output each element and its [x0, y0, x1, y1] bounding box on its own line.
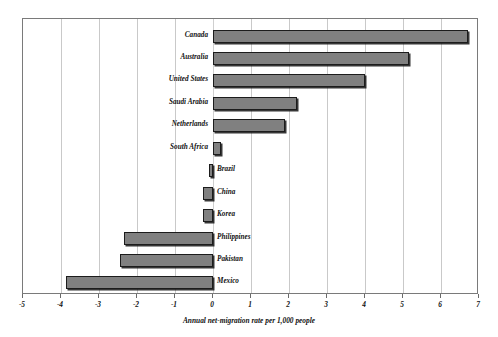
bar — [213, 119, 285, 132]
x-axis-tick-label: 3 — [314, 300, 338, 310]
category-label: Canada — [185, 29, 208, 42]
plot-area — [22, 18, 478, 294]
category-label: Mexico — [217, 275, 239, 288]
x-axis-tick-label: -2 — [124, 300, 148, 310]
category-label: Philippines — [217, 231, 251, 244]
category-label: South Africa — [170, 141, 208, 154]
x-axis-tick — [478, 294, 479, 298]
category-label: Australia — [180, 51, 208, 64]
x-axis-tick — [440, 294, 441, 298]
x-axis-tick-label: 4 — [352, 300, 376, 310]
bar-chart: -5-4-3-2-101234567 CanadaAustraliaUnited… — [0, 0, 498, 337]
x-axis-tick — [326, 294, 327, 298]
x-axis-tick — [98, 294, 99, 298]
gridline — [61, 19, 62, 293]
x-axis-tick-label: 0 — [200, 300, 224, 310]
category-label: United States — [169, 73, 208, 86]
bar — [66, 276, 213, 289]
x-axis-tick-label: -4 — [48, 300, 72, 310]
x-axis-tick — [136, 294, 137, 298]
x-axis-tick — [174, 294, 175, 298]
x-axis-tick-label: 7 — [466, 300, 490, 310]
x-axis-tick — [212, 294, 213, 298]
x-axis-title: Annual net-migration rate per 1,000 peop… — [0, 316, 498, 325]
gridline — [441, 19, 442, 293]
bar — [203, 187, 213, 200]
gridline — [99, 19, 100, 293]
bar — [213, 30, 468, 43]
x-axis-tick — [60, 294, 61, 298]
bar — [213, 97, 297, 110]
bar — [203, 209, 213, 222]
x-axis-tick-label: 6 — [428, 300, 452, 310]
gridline — [175, 19, 176, 293]
bar — [213, 142, 221, 155]
category-label: Netherlands — [172, 118, 208, 131]
bar — [120, 254, 213, 267]
category-label: Saudi Arabia — [169, 96, 208, 109]
category-label: China — [217, 186, 235, 199]
x-axis-tick — [364, 294, 365, 298]
category-label: Brazil — [217, 163, 235, 176]
x-axis-tick-label: 2 — [276, 300, 300, 310]
category-label: Pakistan — [217, 253, 243, 266]
bar — [213, 52, 409, 65]
x-axis-tick — [402, 294, 403, 298]
x-axis-tick-label: 5 — [390, 300, 414, 310]
gridline — [137, 19, 138, 293]
category-label: Korea — [217, 208, 235, 221]
x-axis-tick — [250, 294, 251, 298]
x-axis-tick — [22, 294, 23, 298]
bar — [124, 232, 213, 245]
x-axis-tick — [288, 294, 289, 298]
x-axis-tick-label: 1 — [238, 300, 262, 310]
x-axis-tick-label: -3 — [86, 300, 110, 310]
bar — [213, 74, 365, 87]
bar — [209, 164, 213, 177]
x-axis-tick-label: -5 — [10, 300, 34, 310]
x-axis-tick-label: -1 — [162, 300, 186, 310]
